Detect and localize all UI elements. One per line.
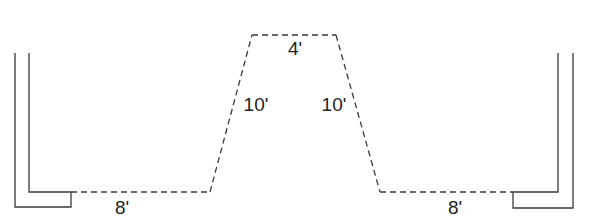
right-wall	[513, 53, 573, 208]
left-wall-inner	[29, 53, 71, 192]
left-wall	[15, 53, 71, 207]
label-right-slope: 10'	[322, 94, 347, 115]
right-wall-outer	[513, 53, 573, 208]
right-wall-inner	[513, 53, 558, 192]
label-left-slope: 10'	[244, 94, 269, 115]
label-right-bottom: 8'	[448, 197, 462, 218]
label-top: 4'	[288, 38, 302, 59]
label-left-bottom: 8'	[115, 197, 129, 218]
left-wall-outer	[15, 53, 71, 207]
cross-section-diagram: 8' 10' 4' 10' 8'	[0, 0, 590, 224]
